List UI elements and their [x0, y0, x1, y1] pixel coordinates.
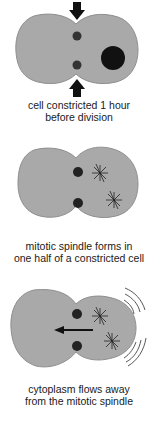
contractile-dot-bottom	[72, 341, 82, 351]
constriction-arrow-top-icon	[69, 2, 85, 20]
caption-panel-1: cell constricted 1 hour before division	[0, 99, 158, 123]
contractile-dot-bottom	[73, 198, 83, 208]
caption-line: one half of a constricted cell	[0, 252, 158, 264]
contractile-dot-top	[73, 32, 82, 41]
flow-cell-diagram	[0, 280, 158, 375]
cell-body	[11, 290, 136, 367]
caption-line: from the mitotic spindle	[0, 395, 158, 407]
contractile-dot-top	[73, 167, 83, 177]
caption-line: cytoplasm flows away	[0, 383, 158, 395]
caption-panel-2: mitotic spindle forms in one half of a c…	[0, 240, 158, 264]
caption-line: cell constricted 1 hour	[0, 99, 158, 111]
caption-panel-3: cytoplasm flows away from the mitotic sp…	[0, 383, 158, 407]
contractile-dot-top	[72, 309, 82, 319]
constricted-cell-diagram	[0, 0, 158, 100]
caption-line: mitotic spindle forms in	[0, 240, 158, 252]
contractile-dot-bottom	[73, 61, 82, 70]
panel-constricted-cell: cell constricted 1 hour before division	[0, 0, 158, 140]
spindle-cell-diagram	[0, 140, 158, 230]
panel-cytoplasm-flow: cytoplasm flows away from the mitotic sp…	[0, 280, 158, 425]
nucleus	[101, 46, 125, 70]
caption-line: before division	[0, 111, 158, 123]
constriction-arrow-bottom-icon	[69, 79, 85, 97]
panel-spindle-forms: mitotic spindle forms in one half of a c…	[0, 140, 158, 280]
